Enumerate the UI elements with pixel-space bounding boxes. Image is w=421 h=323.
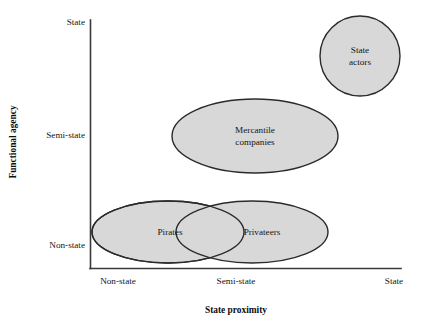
- y-tick-label-semi-state: Semi-state: [46, 130, 85, 140]
- region-state-actors[interactable]: [320, 16, 400, 96]
- y-tick-label-non-state: Non-state: [49, 240, 85, 250]
- x-tick-label-non-state: Non-state: [100, 276, 136, 286]
- x-axis-title: State proximity: [205, 305, 267, 315]
- x-tick-label-semi-state: Semi-state: [217, 276, 256, 286]
- scatter-region-diagram: State Semi-state Non-state Non-state Sem…: [0, 0, 421, 323]
- y-axis-title: Functional agency: [8, 105, 18, 178]
- y-tick-label-state: State: [67, 17, 85, 27]
- region-label-mercantile-companies-line2: companies: [235, 137, 275, 147]
- region-label-state-actors-line2: actors: [349, 57, 371, 67]
- region-label-state-actors-line1: State: [351, 45, 369, 55]
- region-label-pirates: Pirates: [157, 227, 182, 237]
- region-mercantile-companies[interactable]: [172, 99, 338, 173]
- region-label-mercantile-companies-line1: Mercantile: [235, 125, 275, 135]
- figure-container: State Semi-state Non-state Non-state Sem…: [0, 0, 421, 323]
- region-label-privateers: Privateers: [244, 227, 281, 237]
- x-tick-label-state: State: [385, 276, 403, 286]
